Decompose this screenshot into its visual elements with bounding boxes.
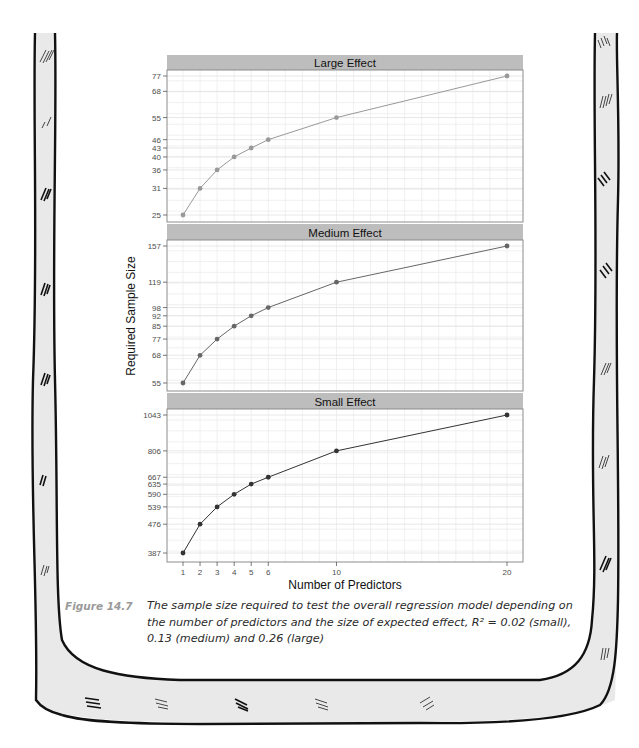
facet-panel-small-effect: Small Effect3874765395906356678061043 [143, 393, 523, 562]
x-tick-label: 6 [266, 568, 271, 577]
y-tick-label: 68 [152, 351, 161, 360]
x-tick-label: 10 [332, 568, 341, 577]
data-point [215, 168, 220, 173]
y-tick-label: 43 [152, 144, 161, 153]
facet-title: Medium Effect [308, 227, 382, 239]
y-tick-label: 68 [152, 87, 161, 96]
data-point [334, 280, 339, 285]
facet-title: Small Effect [314, 396, 376, 408]
data-point [198, 522, 203, 527]
y-axis-ticks: 556877859298119157 [148, 242, 167, 388]
data-point [249, 313, 254, 318]
data-point [198, 186, 203, 191]
y-axis-ticks: 3874765395906356678061043 [143, 411, 167, 558]
y-tick-label: 55 [152, 114, 161, 123]
y-tick-label: 46 [152, 136, 161, 145]
data-point [266, 475, 271, 480]
y-tick-label: 590 [148, 490, 162, 499]
data-point [505, 244, 510, 249]
data-point [181, 213, 186, 218]
facet-panel-medium-effect: Medium Effect556877859298119157 [148, 224, 523, 391]
figure-label: Figure 14.7 [65, 598, 147, 615]
x-tick-label: 20 [503, 568, 512, 577]
data-point [334, 115, 339, 120]
x-axis: 1234561020Number of Predictors [181, 562, 512, 592]
data-point [334, 448, 339, 453]
data-point [232, 492, 237, 497]
y-tick-label: 539 [148, 503, 162, 512]
y-tick-label: 806 [148, 447, 162, 456]
y-tick-label: 92 [152, 312, 161, 321]
y-tick-label: 55 [152, 379, 161, 388]
data-point [505, 74, 510, 79]
data-point [181, 551, 186, 556]
y-axis-ticks: 253136404346556877 [152, 72, 167, 220]
data-point [505, 413, 510, 418]
data-point [215, 337, 220, 342]
data-point [266, 305, 271, 310]
y-tick-label: 119 [148, 278, 161, 287]
x-tick-label: 4 [232, 568, 237, 577]
y-tick-label: 85 [152, 322, 161, 331]
data-point [198, 353, 203, 358]
y-tick-label: 387 [148, 549, 162, 558]
facet-title: Large Effect [314, 57, 377, 69]
data-point [232, 324, 237, 329]
data-point [232, 155, 237, 160]
y-tick-label: 476 [148, 520, 162, 529]
data-point [249, 146, 254, 151]
data-point [215, 504, 220, 509]
facet-panel-large-effect: Large Effect253136404346556877 [152, 55, 523, 222]
y-tick-label: 77 [152, 335, 161, 344]
data-point [266, 137, 271, 142]
y-tick-label: 36 [152, 166, 161, 175]
y-tick-label: 157 [148, 242, 162, 251]
x-tick-label: 5 [249, 568, 254, 577]
y-tick-label: 667 [148, 473, 162, 482]
y-axis-title: Required Sample Size [124, 256, 138, 376]
x-tick-label: 3 [215, 568, 220, 577]
x-axis-title: Number of Predictors [288, 578, 401, 592]
data-point [181, 381, 186, 386]
y-tick-label: 40 [152, 153, 161, 162]
y-tick-label: 98 [152, 304, 161, 313]
x-tick-label: 1 [181, 568, 186, 577]
y-tick-label: 1043 [143, 411, 161, 420]
y-tick-label: 31 [152, 184, 161, 193]
y-tick-label: 25 [152, 211, 161, 220]
figure-caption-text: The sample size required to test the ove… [147, 598, 587, 648]
x-tick-label: 2 [198, 568, 203, 577]
data-point [249, 482, 254, 487]
y-tick-label: 77 [152, 72, 161, 81]
